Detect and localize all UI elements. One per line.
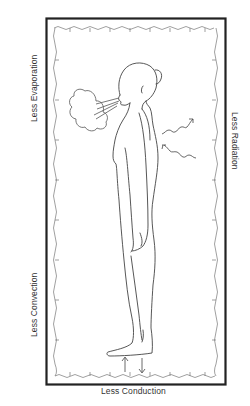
inner-blanket-lining xyxy=(54,27,218,378)
label-less-radiation: Less Radiation xyxy=(230,112,240,170)
radiation-in-arrow xyxy=(164,145,196,158)
label-less-evaporation: Less Evaporation xyxy=(29,55,39,122)
label-less-conduction: Less Conduction xyxy=(101,386,166,396)
conduction-down-arrow xyxy=(139,358,145,373)
radiation-arrows xyxy=(162,119,196,158)
conduction-arrows xyxy=(122,357,145,373)
label-less-convection: Less Convection xyxy=(29,273,39,337)
conduction-up-arrow xyxy=(122,357,128,372)
outer-frame xyxy=(47,19,226,385)
radiation-out-arrow xyxy=(162,119,193,134)
breath-cloud xyxy=(70,89,119,131)
